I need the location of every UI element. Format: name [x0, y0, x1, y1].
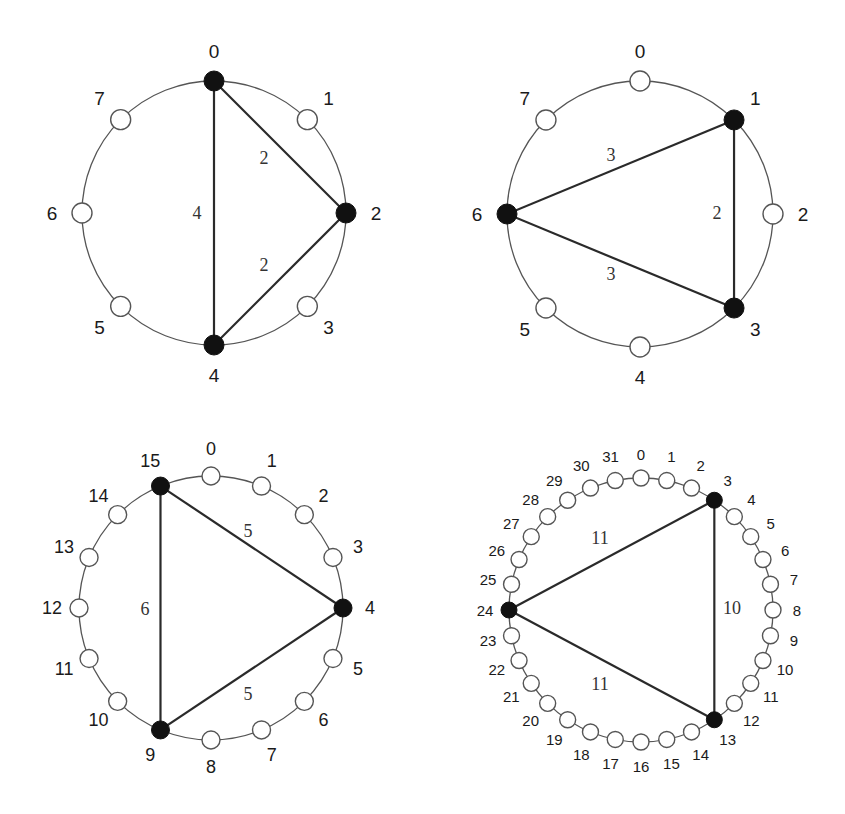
- node-index-label: 4: [209, 365, 220, 386]
- selected-node: [204, 71, 224, 91]
- ring-node: [70, 599, 88, 617]
- triangle-edge: [160, 608, 343, 730]
- node-index-label: 2: [697, 457, 705, 474]
- ring-node: [536, 110, 556, 130]
- ring-node: [582, 480, 598, 496]
- ring-node: [659, 473, 675, 489]
- node-index-label: 10: [777, 661, 794, 678]
- ring-node: [202, 467, 220, 485]
- ring-node: [297, 110, 317, 130]
- selected-node: [151, 721, 169, 739]
- ring-node: [540, 509, 556, 525]
- node-index-label: 13: [719, 731, 736, 748]
- node-index-label: 1: [267, 451, 277, 471]
- node-index-label: 3: [353, 537, 363, 557]
- node-index-label: 12: [743, 712, 760, 729]
- node-index-label: 10: [89, 710, 109, 730]
- selected-node: [334, 599, 352, 617]
- node-index-label: 27: [503, 515, 520, 532]
- triangle-edge: [507, 120, 734, 214]
- ring-node: [560, 492, 576, 508]
- ring-node: [684, 480, 700, 496]
- ring-node: [755, 653, 771, 669]
- ring-node: [684, 724, 700, 740]
- ring-node: [324, 650, 342, 668]
- node-index-label: 7: [267, 745, 277, 765]
- ring-node: [253, 477, 271, 495]
- node-index-label: 4: [635, 367, 646, 388]
- ring-node: [111, 296, 131, 316]
- node-index-label: 5: [767, 515, 775, 532]
- node-index-label: 15: [140, 451, 160, 471]
- node-index-label: 3: [750, 319, 761, 340]
- node-index-label: 8: [206, 757, 216, 777]
- node-index-label: 23: [480, 632, 497, 649]
- node-index-label: 8: [793, 602, 801, 619]
- ring-node: [540, 695, 556, 711]
- ring-node: [536, 298, 556, 318]
- node-index-label: 21: [503, 688, 520, 705]
- node-index-label: 18: [573, 746, 590, 763]
- panel-ring-32: 1110110123456789101112131415161718192021…: [477, 446, 802, 775]
- ring-node: [726, 695, 742, 711]
- panel-ring-8-b: 32301234567: [472, 41, 809, 388]
- node-index-label: 11: [763, 688, 779, 705]
- node-index-label: 7: [790, 571, 798, 588]
- edge-weight-label: 11: [591, 674, 608, 694]
- ring-node: [582, 724, 598, 740]
- node-index-label: 30: [573, 457, 590, 474]
- node-index-label: 2: [798, 204, 809, 225]
- node-index-label: 2: [318, 486, 328, 506]
- node-index-label: 3: [323, 317, 334, 338]
- ring-node: [659, 731, 675, 747]
- ring-node: [504, 628, 520, 644]
- node-index-label: 11: [55, 659, 74, 679]
- node-index-label: 14: [89, 486, 109, 506]
- node-index-label: 26: [489, 542, 506, 559]
- ring-diagrams-figure: 22401234567 32301234567 5560123456789101…: [0, 0, 845, 814]
- node-index-label: 22: [489, 661, 506, 678]
- node-index-label: 0: [209, 41, 220, 62]
- ring-node: [743, 675, 759, 691]
- node-index-label: 9: [790, 632, 798, 649]
- ring-node: [743, 529, 759, 545]
- edge-weight-label: 3: [607, 145, 616, 165]
- node-index-label: 4: [365, 598, 375, 618]
- ring-node: [523, 529, 539, 545]
- ring-node: [72, 203, 92, 223]
- node-index-label: 6: [47, 203, 58, 224]
- selected-node: [497, 204, 517, 224]
- node-index-label: 5: [519, 319, 530, 340]
- node-index-label: 6: [781, 542, 789, 559]
- ring-node: [726, 509, 742, 525]
- node-index-label: 14: [692, 746, 709, 763]
- ring-node: [109, 506, 127, 524]
- ring-node: [560, 712, 576, 728]
- ring-node: [324, 548, 342, 566]
- node-index-label: 0: [637, 446, 645, 463]
- ring-node: [297, 296, 317, 316]
- selected-node: [706, 712, 722, 728]
- node-index-label: 7: [519, 88, 530, 109]
- edge-weight-label: 5: [244, 521, 253, 541]
- node-index-label: 5: [353, 659, 363, 679]
- selected-node: [724, 298, 744, 318]
- ring-node: [765, 602, 781, 618]
- edge-weight-label: 4: [193, 203, 202, 223]
- ring-node: [633, 470, 649, 486]
- edge-weight-label: 6: [141, 599, 150, 619]
- node-index-label: 1: [667, 448, 675, 465]
- selected-node: [336, 203, 356, 223]
- node-index-label: 15: [663, 755, 680, 772]
- edge-weight-label: 10: [723, 598, 741, 618]
- node-index-label: 0: [206, 439, 216, 459]
- node-index-label: 25: [480, 571, 497, 588]
- node-index-label: 7: [94, 88, 105, 109]
- edge-weight-label: 11: [591, 528, 608, 548]
- ring-node: [295, 506, 313, 524]
- node-index-label: 2: [371, 203, 382, 224]
- node-index-label: 17: [602, 755, 619, 772]
- node-index-label: 4: [747, 491, 755, 508]
- node-index-label: 31: [602, 448, 619, 465]
- node-index-label: 5: [94, 317, 105, 338]
